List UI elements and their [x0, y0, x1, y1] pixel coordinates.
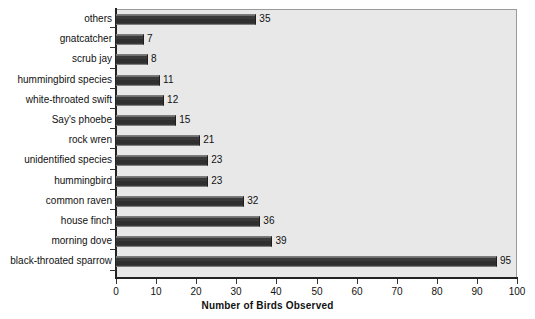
x-axis-tick-label: 100: [502, 285, 532, 298]
x-axis-tick-label: 30: [221, 285, 251, 298]
y-axis-tick: [110, 47, 116, 48]
bar: [116, 135, 200, 146]
bar: [116, 176, 208, 187]
category-label-wrap: black-throated sparrow: [0, 251, 112, 271]
y-axis-tick: [110, 148, 116, 149]
x-axis-tick: [276, 279, 277, 284]
bar-row: unidentified species23: [0, 150, 535, 170]
y-axis-tick: [110, 169, 116, 170]
x-axis-tick-label: 70: [382, 285, 412, 298]
bar: [116, 34, 144, 45]
y-axis-tick: [110, 68, 116, 69]
bar-row: hummingbird species11: [0, 70, 535, 90]
bar-value-label: 35: [259, 11, 270, 27]
category-label-wrap: hummingbird species: [0, 70, 112, 90]
category-label: white-throated swift: [0, 92, 112, 108]
bar-row: gnatcatcher7: [0, 29, 535, 49]
category-label: others: [0, 11, 112, 27]
x-axis-tick: [397, 279, 398, 284]
bar-value-label: 21: [203, 132, 214, 148]
bar-value-label: 8: [151, 51, 157, 67]
y-axis-tick: [110, 27, 116, 28]
bar-value-label: 39: [275, 233, 286, 249]
bar: [116, 115, 176, 126]
y-axis-tick: [110, 229, 116, 230]
category-label-wrap: common raven: [0, 191, 112, 211]
bar-value-label: 12: [167, 92, 178, 108]
y-axis-tick: [110, 270, 116, 271]
x-axis-tick-label: 40: [261, 285, 291, 298]
x-axis-tick: [317, 279, 318, 284]
category-label-wrap: morning dove: [0, 231, 112, 251]
bar-row: scrub jay8: [0, 49, 535, 69]
bar-value-label: 23: [211, 152, 222, 168]
bar-value-label: 36: [263, 213, 274, 229]
bar: [116, 236, 272, 247]
x-axis-title: Number of Birds Observed: [0, 300, 535, 311]
bar-chart: others35gnatcatcher7scrub jay8hummingbir…: [0, 0, 535, 319]
y-axis-tick: [110, 249, 116, 250]
bar-row: common raven32: [0, 191, 535, 211]
y-axis-tick: [110, 209, 116, 210]
bar: [116, 216, 260, 227]
x-axis-tick-label: 50: [302, 285, 332, 298]
bar-value-label: 15: [179, 112, 190, 128]
bar-row: white-throated swift12: [0, 90, 535, 110]
bar-value-label: 11: [163, 72, 173, 88]
bar: [116, 256, 497, 267]
category-label: black-throated sparrow: [0, 253, 112, 269]
y-axis-tick: [110, 128, 116, 129]
x-axis-tick-label: 90: [462, 285, 492, 298]
category-label: gnatcatcher: [0, 31, 112, 47]
bar-row: Say's phoebe15: [0, 110, 535, 130]
bar-row: hummingbird23: [0, 171, 535, 191]
bar-value-label: 23: [211, 173, 222, 189]
x-axis-tick-label: 10: [141, 285, 171, 298]
x-axis-tick-label: 80: [422, 285, 452, 298]
category-label-wrap: scrub jay: [0, 49, 112, 69]
bar-value-label: 7: [147, 31, 153, 47]
x-axis-tick-label: 0: [101, 285, 131, 298]
category-label: morning dove: [0, 233, 112, 249]
y-axis-tick: [110, 108, 116, 109]
category-label: common raven: [0, 193, 112, 209]
bar-row: morning dove39: [0, 231, 535, 251]
bar-row: others35: [0, 9, 535, 29]
category-label-wrap: house finch: [0, 211, 112, 231]
x-axis-tick: [116, 279, 117, 284]
category-label: house finch: [0, 213, 112, 229]
x-axis-tick: [437, 279, 438, 284]
bar-value-label: 95: [500, 253, 511, 269]
x-axis-tick: [357, 279, 358, 284]
category-label-wrap: others: [0, 9, 112, 29]
bar: [116, 75, 160, 86]
x-axis-tick-label: 20: [181, 285, 211, 298]
y-axis-tick: [110, 88, 116, 89]
category-label-wrap: unidentified species: [0, 150, 112, 170]
category-label: scrub jay: [0, 51, 112, 67]
bar-row: black-throated sparrow95: [0, 251, 535, 271]
category-label: unidentified species: [0, 152, 112, 168]
bar: [116, 155, 208, 166]
category-label: hummingbird species: [0, 72, 112, 88]
x-axis-tick: [156, 279, 157, 284]
x-axis-tick-label: 60: [342, 285, 372, 298]
x-axis-tick: [196, 279, 197, 284]
category-label-wrap: rock wren: [0, 130, 112, 150]
bar: [116, 54, 148, 65]
category-label-wrap: gnatcatcher: [0, 29, 112, 49]
bar-value-label: 32: [247, 193, 258, 209]
category-label: rock wren: [0, 132, 112, 148]
bar: [116, 14, 256, 25]
bar: [116, 196, 244, 207]
x-axis-tick: [236, 279, 237, 284]
bar-row: rock wren21: [0, 130, 535, 150]
category-label-wrap: Say's phoebe: [0, 110, 112, 130]
y-axis-tick: [110, 189, 116, 190]
bar: [116, 95, 164, 106]
category-label: Say's phoebe: [0, 112, 112, 128]
category-label: hummingbird: [0, 173, 112, 189]
category-label-wrap: hummingbird: [0, 171, 112, 191]
x-axis-tick: [517, 279, 518, 284]
category-label-wrap: white-throated swift: [0, 90, 112, 110]
